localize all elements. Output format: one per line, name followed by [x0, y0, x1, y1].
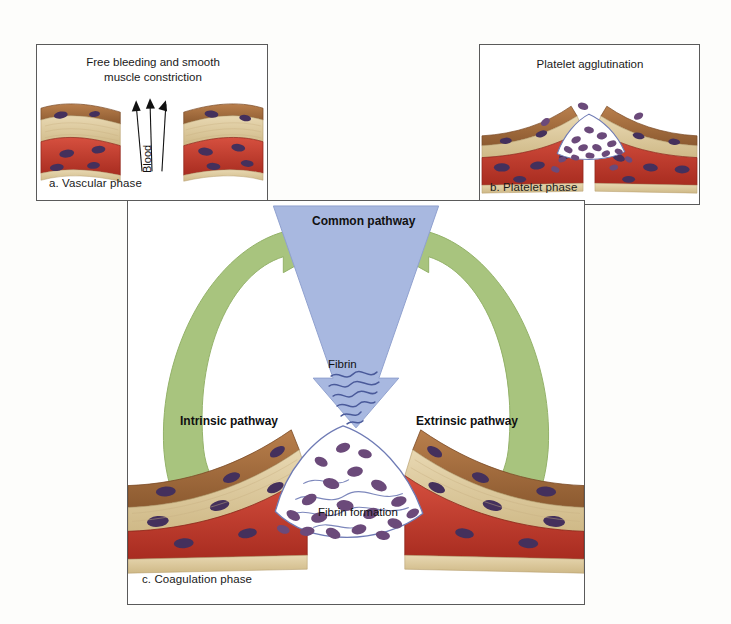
- panel-platelet-phase: Platelet agglutination: [479, 44, 700, 205]
- fibrin-clot: [275, 426, 422, 541]
- vessel-wall-right: [405, 430, 584, 573]
- panel-c-caption: c. Coagulation phase: [142, 573, 252, 585]
- common-pathway-arrow: [273, 206, 438, 428]
- extrinsic-pathway-label: Extrinsic pathway: [416, 414, 518, 428]
- coagulation-phase-illustration: [128, 201, 584, 604]
- panel-b-caption: b. Platelet phase: [490, 181, 577, 193]
- panel-coagulation-phase: Common pathway Fibrin Intrinsic pathway …: [127, 200, 585, 605]
- vessel-wall-right: [184, 104, 263, 181]
- blood-flow-arrowheads: [132, 98, 167, 111]
- fibrin-label: Fibrin: [328, 358, 357, 370]
- panel-vascular-phase: Free bleeding and smooth muscle constric…: [36, 44, 268, 201]
- fibrin-formation-label: Fibrin formation: [318, 506, 398, 518]
- vessel-wall-left: [41, 104, 120, 181]
- intrinsic-pathway-label: Intrinsic pathway: [180, 414, 278, 428]
- blood-label: Blood: [141, 145, 153, 173]
- common-pathway-label: Common pathway: [312, 214, 415, 228]
- panel-a-caption: a. Vascular phase: [49, 177, 142, 189]
